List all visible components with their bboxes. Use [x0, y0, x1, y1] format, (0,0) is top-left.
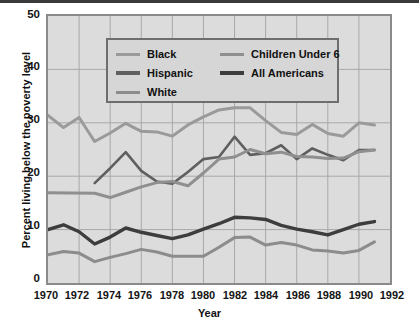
plot-area: Black Hispanic White Children Under 6 [46, 14, 392, 285]
legend-swatch-white [116, 91, 140, 94]
x-axis-tick-1992: 1992 [372, 289, 412, 301]
y-axis-title: Percent living below the poverty level [20, 45, 32, 255]
series-line-white [48, 237, 374, 262]
poverty-line-chart-figure: 50 40 30 20 10 0 1970 1972 1974 1976 197… [0, 0, 419, 327]
legend-swatch-children-under-6 [220, 53, 244, 56]
series-line-all-americans [48, 217, 374, 244]
legend-item-white: White [116, 83, 193, 101]
legend-swatch-black [116, 53, 140, 56]
y-axis-tick-50: 50 [12, 8, 40, 20]
legend-label-children-under-6: Children Under 6 [251, 49, 340, 60]
legend-label-black: Black [147, 49, 176, 60]
series-line-black [48, 108, 374, 142]
chart-legend: Black Hispanic White Children Under 6 [106, 38, 339, 103]
x-axis-title: Year [0, 307, 419, 319]
series-line-hispanic [95, 137, 375, 184]
legend-column-left: Black Hispanic White [116, 45, 193, 102]
legend-swatch-all-americans [220, 71, 244, 75]
series-line-children-under-6 [48, 150, 374, 198]
legend-item-hispanic: Hispanic [116, 64, 193, 82]
legend-item-black: Black [116, 45, 193, 63]
legend-item-all-americans: All Americans [220, 64, 340, 82]
y-axis-tick-0: 0 [12, 272, 40, 284]
legend-label-hispanic: Hispanic [147, 68, 193, 79]
legend-label-white: White [147, 87, 177, 98]
legend-label-all-americans: All Americans [251, 68, 324, 79]
legend-item-children-under-6: Children Under 6 [220, 45, 340, 63]
legend-swatch-hispanic [116, 71, 140, 75]
legend-column-right: Children Under 6 All Americans [220, 45, 340, 83]
